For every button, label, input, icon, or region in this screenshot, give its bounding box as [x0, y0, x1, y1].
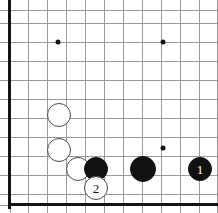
grid-line-horizontal-4 [0, 80, 218, 81]
grid-line-horizontal-8 [0, 156, 218, 157]
grid-line-horizontal-3 [0, 61, 218, 62]
go-board-diagram: 12 [0, 0, 218, 213]
white-stone-upper[interactable] [47, 103, 71, 127]
black-stone-move-1-label: 1 [197, 163, 204, 176]
grid-line-horizontal-0 [0, 10, 218, 11]
black-stone-move-1[interactable]: 1 [188, 157, 212, 181]
grid-line-horizontal-5 [0, 99, 218, 100]
star-point-upper-right-icon [161, 40, 166, 45]
grid-line-vertical-8 [161, 0, 162, 213]
grid-line-vertical-11 [217, 0, 218, 213]
white-stone-move-2[interactable]: 2 [84, 176, 108, 200]
black-stone-center[interactable] [130, 156, 156, 182]
star-point-lower-right-icon [161, 146, 166, 151]
star-point-upper-left-icon [56, 40, 61, 45]
grid-line-vertical-2 [47, 0, 48, 213]
grid-line-vertical-1 [28, 0, 29, 213]
white-stone-middle[interactable] [47, 138, 71, 162]
board-border-left [8, 0, 11, 209]
white-stone-move-2-label: 2 [93, 182, 100, 195]
grid-line-horizontal-2 [0, 42, 218, 43]
grid-line-horizontal-9 [0, 175, 218, 176]
grid-line-horizontal-6 [0, 118, 218, 119]
grid-line-vertical-9 [180, 0, 181, 213]
grid-line-horizontal-10 [0, 194, 218, 195]
grid-line-vertical-10 [199, 0, 200, 213]
board-border-bottom [8, 203, 218, 206]
grid-line-horizontal-7 [0, 137, 218, 138]
grid-line-vertical-6 [123, 0, 124, 213]
grid-line-horizontal-1 [0, 23, 218, 24]
